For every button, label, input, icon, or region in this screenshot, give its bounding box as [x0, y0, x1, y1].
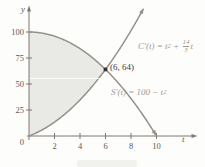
curve-s-arrowhead — [152, 130, 157, 136]
x-tick-label: 8 — [129, 141, 133, 151]
fraction-numerator: 14 — [182, 39, 189, 46]
origin-label: 0 — [13, 138, 24, 147]
intersection-label: (6, 64) — [110, 63, 134, 73]
scan-artifact — [77, 160, 137, 167]
x-tick-label: 2 — [52, 141, 56, 151]
curve-s-eq-text: S′(t) = 100 − t — [111, 88, 163, 98]
curve-c-eq-suffix: t — [190, 42, 193, 52]
y-tick-label: 50 — [16, 79, 25, 89]
curve-c-eq-prefix: C′(t) = t — [138, 42, 168, 52]
intersection-point — [104, 68, 108, 72]
fraction-14-3: 143 — [182, 39, 189, 55]
curve-c-arrowhead — [139, 8, 144, 14]
y-axis-label: y — [21, 5, 25, 15]
y-tick-label: 25 — [16, 105, 25, 115]
scan-artifact-line — [30, 78, 104, 79]
plot-svg: 246810255075100 — [0, 0, 205, 167]
x-tick-label: 4 — [78, 141, 83, 151]
fraction-denominator: 3 — [183, 46, 190, 54]
curve-c-equation: C′(t) = t2 + 143t — [138, 38, 193, 55]
figure: 246810255075100 y t 0 C′(t) = t2 + 143t … — [0, 0, 205, 167]
x-tick-label: 6 — [103, 141, 107, 151]
x-tick-label: 10 — [152, 141, 161, 151]
y-tick-label: 100 — [11, 27, 24, 37]
curve-s-equation: S′(t) = 100 − t2 — [111, 88, 166, 98]
y-axis-arrowhead — [27, 6, 31, 12]
curve-c-eq-plus: + — [171, 42, 182, 52]
y-tick-label: 75 — [16, 53, 25, 63]
x-axis-label: t — [182, 135, 185, 145]
x-axis-arrowhead — [192, 134, 198, 138]
